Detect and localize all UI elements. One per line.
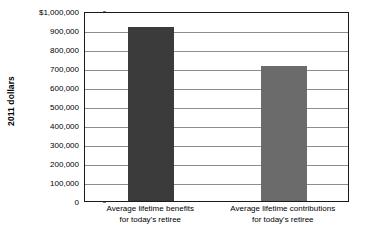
x-axis-category-labels: Average lifetime benefitsfor today's ret…	[84, 204, 349, 242]
y-axis-title-label: 2011 dollars	[6, 76, 16, 126]
x-axis-category-label: Average lifetime benefitsfor today's ret…	[84, 204, 217, 225]
y-axis-tick-label: 800,000	[50, 46, 79, 55]
y-axis-tick-labels: $1,000,000900,000800,000700,000600,00050…	[22, 12, 82, 202]
y-axis-tick-label: 400,000	[50, 122, 79, 131]
gridline	[85, 89, 348, 90]
gridline	[85, 146, 348, 147]
y-axis-tick-label: 700,000	[50, 65, 79, 74]
x-axis-category-label-line: for today's retiree	[84, 215, 217, 226]
plot-area	[84, 12, 349, 202]
x-axis-category-label-line: for today's retiree	[217, 215, 350, 226]
x-axis-category-label: Average lifetime contributionsfor today'…	[217, 204, 350, 225]
y-axis-tick-label: 500,000	[50, 103, 79, 112]
x-axis-category-label-line: Average lifetime benefits	[107, 204, 194, 213]
bar	[128, 27, 174, 201]
y-axis-tick-label: 0	[75, 198, 79, 207]
gridline	[85, 70, 348, 71]
bar-chart: 2011 dollars $1,000,000900,000800,000700…	[0, 0, 366, 242]
gridline	[85, 127, 348, 128]
gridline	[85, 184, 348, 185]
y-axis-tick-label: 200,000	[50, 160, 79, 169]
gridline	[85, 165, 348, 166]
y-axis-tick-label: 300,000	[50, 141, 79, 150]
y-axis-tick-label: 100,000	[50, 179, 79, 188]
y-axis-tick-label: $1,000,000	[39, 8, 79, 17]
bar	[261, 66, 307, 201]
y-axis-tick-label: 600,000	[50, 84, 79, 93]
plot-inner	[85, 13, 348, 201]
x-axis-category-label-line: Average lifetime contributions	[230, 204, 335, 213]
gridline	[85, 32, 348, 33]
gridline	[85, 51, 348, 52]
y-axis-tick-label: 900,000	[50, 27, 79, 36]
gridline	[85, 108, 348, 109]
y-axis-title: 2011 dollars	[0, 0, 22, 202]
